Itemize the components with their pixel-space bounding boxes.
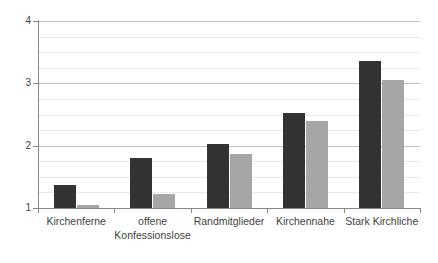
- bar: [77, 205, 99, 208]
- bar-chart: 1234 Kirchenferneoffene KonfessionsloseR…: [0, 0, 438, 263]
- bar: [153, 194, 175, 208]
- y-axis-tick-label: 1: [5, 203, 31, 213]
- x-axis-tick: [114, 208, 115, 213]
- bar: [230, 154, 252, 208]
- y-axis-tick-label: 4: [5, 16, 31, 26]
- x-axis-tick: [344, 208, 345, 213]
- x-axis-tick: [38, 208, 39, 213]
- x-axis-tick: [191, 208, 192, 213]
- bar: [382, 80, 404, 208]
- bar: [283, 113, 305, 208]
- gridline-major: [38, 208, 420, 209]
- x-axis-category-label: Stark Kirchliche: [335, 214, 429, 228]
- bar: [306, 121, 328, 208]
- bars-layer: [38, 21, 420, 208]
- y-axis-tick-label: 3: [5, 78, 31, 88]
- x-axis-tick: [267, 208, 268, 213]
- bar: [130, 158, 152, 208]
- bar: [359, 61, 381, 208]
- bar: [207, 144, 229, 208]
- y-axis-tick-label: 2: [5, 141, 31, 151]
- bar: [54, 185, 76, 208]
- x-axis-tick: [420, 208, 421, 213]
- x-axis-labels: Kirchenferneoffene KonfessionsloseRandmi…: [0, 214, 438, 263]
